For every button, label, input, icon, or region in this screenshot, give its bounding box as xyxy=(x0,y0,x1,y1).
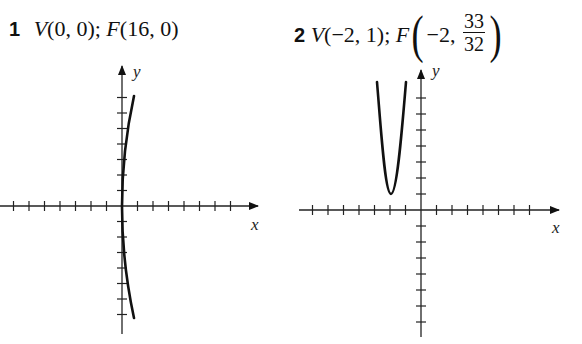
x-axis-label: x xyxy=(250,215,259,234)
y-axis-label: y xyxy=(131,62,141,81)
y-axis-label: y xyxy=(430,61,440,80)
graph-1: x y xyxy=(0,62,259,334)
parabola-curve xyxy=(122,96,134,318)
x-axis-label: x xyxy=(551,218,560,237)
graph-2: x y xyxy=(299,61,560,337)
parabola-curve xyxy=(377,82,406,194)
graphs-canvas: x y xyxy=(0,0,582,344)
